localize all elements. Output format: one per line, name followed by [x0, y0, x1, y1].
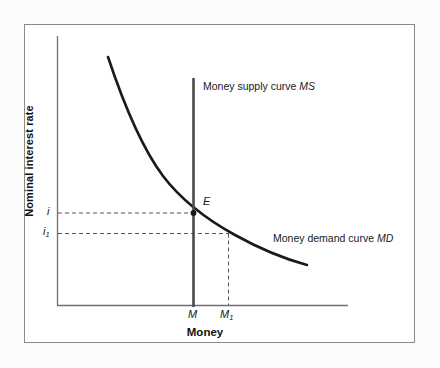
x-tick-label-m1-subscript: 1 [229, 313, 233, 322]
money-demand-curve-label-text: Money demand curve [273, 232, 377, 244]
money-supply-curve-label-text: Money supply curve [203, 80, 299, 92]
y-tick-label-i1-subscript: 1 [45, 230, 49, 239]
x-tick-label-m1: M1 [220, 309, 233, 320]
y-axis-title: Nominal interest rate [23, 86, 35, 236]
equilibrium-label: E [203, 196, 210, 207]
money-supply-curve-tag: MS [299, 80, 315, 92]
money-demand-curve-tag: MD [377, 232, 393, 244]
x-tick-label-m1-base: M [220, 308, 229, 320]
y-tick-label-i1: i1 [43, 226, 50, 237]
money-market-figure: Money supply curve MS Money demand curve… [0, 0, 440, 368]
y-tick-label-i: i [47, 206, 49, 217]
money-demand-curve-label: Money demand curve MD [273, 233, 393, 244]
equilibrium-point-marker [191, 210, 197, 216]
money-supply-curve-label: Money supply curve MS [203, 81, 315, 92]
x-tick-label-m: M [188, 309, 197, 320]
x-axis-title: Money [150, 326, 260, 338]
